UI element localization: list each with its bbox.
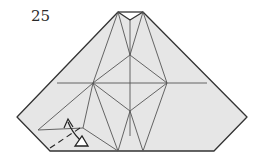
origami-diagram	[0, 0, 262, 162]
paper-outline	[17, 12, 247, 151]
